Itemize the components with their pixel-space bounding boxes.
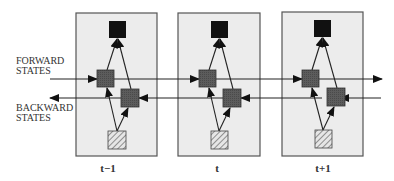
output-node (211, 21, 228, 38)
bidirectional-rnn-diagram: FORWARD STATES BACKWARD STATES t−1 t t+1 (0, 0, 394, 181)
forward-label-line2: STATES (16, 65, 51, 76)
forward-state-node (199, 70, 216, 87)
input-node (211, 131, 228, 149)
timestep-label-t: t (215, 162, 219, 174)
output-node (109, 21, 126, 38)
forward-state-node (302, 70, 319, 87)
input-node (108, 131, 126, 149)
input-node (315, 130, 332, 148)
timestep-label-t-minus-1: t−1 (100, 162, 115, 174)
backward-state-node (121, 89, 139, 107)
forward-state-node (97, 70, 114, 87)
output-node (314, 20, 331, 37)
backward-state-node (223, 89, 241, 107)
timestep-label-t-plus-1: t+1 (315, 162, 330, 174)
backward-label-line2: STATES (16, 112, 51, 123)
backward-state-node (327, 88, 345, 106)
